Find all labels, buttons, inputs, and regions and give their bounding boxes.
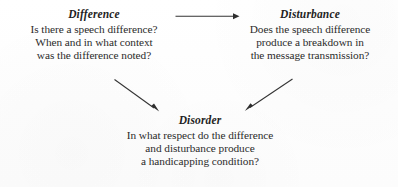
node-disorder: Disorder In what respect do the differen…	[110, 114, 290, 169]
arrow-disturbance-to-disorder-icon	[245, 79, 293, 111]
node-difference-heading: Difference	[4, 8, 184, 22]
node-disturbance-line-3: the message transmission?	[222, 49, 398, 62]
node-disorder-line-1: In what respect do the difference	[110, 129, 290, 142]
node-disorder-line-2: and disturbance produce	[110, 142, 290, 155]
node-disturbance-line-1: Does the speech difference	[222, 23, 398, 36]
node-disorder-heading: Disorder	[110, 114, 290, 128]
node-difference-line-2: When and in what context	[4, 36, 184, 49]
node-difference-line-1: Is there a speech difference?	[4, 23, 184, 36]
diagram-canvas: Difference Is there a speech difference?…	[0, 0, 398, 187]
arrow-difference-to-disorder-icon	[115, 80, 160, 112]
node-difference: Difference Is there a speech difference?…	[4, 8, 184, 63]
node-disturbance-heading: Disturbance	[222, 8, 398, 22]
node-disturbance-line-2: produce a breakdown in	[222, 36, 398, 49]
node-disorder-line-3: a handicapping condition?	[110, 155, 290, 168]
node-difference-line-3: was the difference noted?	[4, 49, 184, 62]
node-disturbance: Disturbance Does the speech difference p…	[222, 8, 398, 63]
